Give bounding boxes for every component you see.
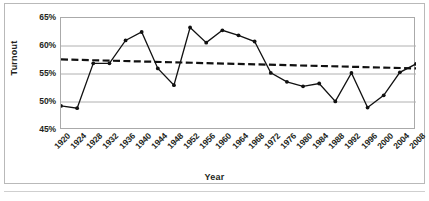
data-point-marker [253, 40, 257, 44]
y-axis-tick-label: 65% [4, 13, 56, 22]
x-axis-title: Year [0, 172, 429, 182]
data-point-marker [124, 39, 128, 43]
data-point-marker [140, 30, 144, 34]
data-point-marker [333, 100, 337, 104]
x-axis-tick-label: 1960 [214, 131, 234, 151]
data-point-marker [108, 61, 112, 65]
data-point-marker [301, 84, 305, 88]
data-point-marker [237, 33, 241, 37]
data-point-marker [350, 71, 354, 75]
data-point-marker [382, 93, 386, 97]
gridlines [61, 46, 416, 102]
y-axis-tick-label: 45% [4, 125, 56, 134]
turnout-by-year-line-chart: Turnout 65% 60% 55% 50% 45% 192019241928… [0, 0, 429, 201]
y-axis-tick-label: 50% [4, 97, 56, 106]
data-point-marker [188, 26, 192, 30]
x-axis-tick-label: 1932 [101, 131, 121, 151]
data-point-marker [204, 41, 208, 45]
x-axis-tick-label: 1936 [117, 131, 137, 151]
x-axis-tick-labels: 1920192419281932193619401944194819521956… [60, 131, 415, 173]
y-axis-tick-label: 55% [4, 69, 56, 78]
data-point-marker [317, 82, 321, 86]
y-axis-tick-labels: 65% 60% 55% 50% 45% [0, 17, 56, 129]
x-axis-tick-label: 1976 [278, 131, 298, 151]
data-point-marker [91, 61, 95, 65]
trendline [61, 59, 416, 68]
x-axis-tick-label: 1992 [343, 131, 363, 151]
data-point-marker [156, 67, 160, 71]
data-point-marker [220, 28, 224, 32]
data-point-marker [61, 104, 63, 108]
chart-bottom-rule [4, 191, 425, 192]
plot-area [60, 17, 415, 129]
x-axis-tick-label: 1972 [262, 131, 282, 151]
data-point-marker [366, 106, 370, 110]
data-point-marker [75, 106, 79, 110]
plot-canvas [61, 18, 416, 130]
data-point-marker [398, 70, 402, 74]
x-axis-tick-label: 1944 [149, 131, 169, 151]
x-axis-tick-label: 1948 [165, 131, 185, 151]
x-axis-tick-label: 1968 [246, 131, 266, 151]
data-point-marker [172, 83, 176, 87]
data-point-marker [285, 80, 289, 84]
x-axis-tick-label: 2000 [375, 131, 395, 151]
x-axis-tick-label: 1940 [133, 131, 153, 151]
data-point-marker [269, 71, 273, 75]
x-axis-tick-label: 1996 [359, 131, 379, 151]
x-axis-tick-label: 1964 [230, 131, 250, 151]
x-axis-tick-label: 2004 [391, 131, 411, 151]
y-axis-tick-label: 60% [4, 41, 56, 50]
